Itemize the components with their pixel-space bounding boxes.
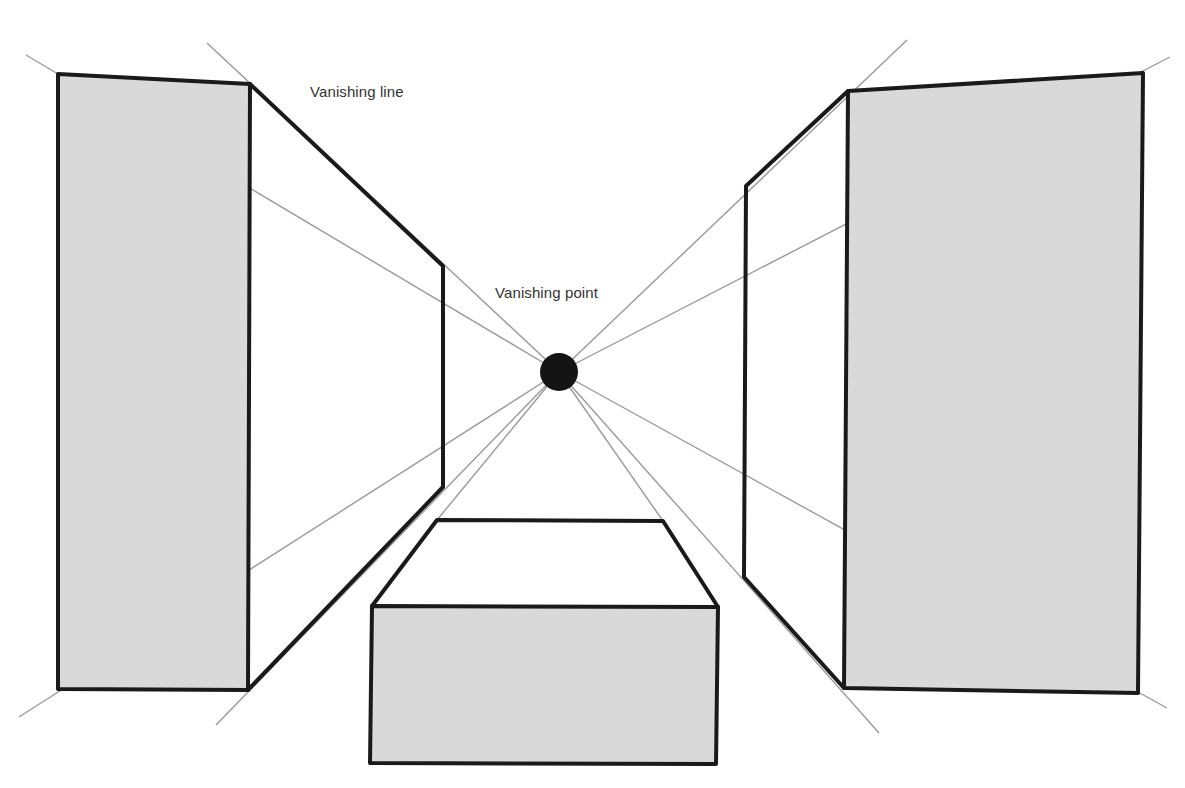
perspective-diagram xyxy=(0,0,1185,788)
vanishing-line-label: Vanishing line xyxy=(310,83,404,100)
vanishing-line xyxy=(437,372,559,520)
left-block xyxy=(58,74,443,690)
center-box-front-face xyxy=(370,606,718,764)
left-block-front-face xyxy=(58,74,250,690)
vanishing-point-dot xyxy=(540,353,578,391)
center-box-top-face xyxy=(372,520,718,607)
right-block-front-face xyxy=(844,73,1143,693)
center-box xyxy=(370,520,718,764)
vanishing-point-label: Vanishing point xyxy=(495,284,598,301)
left-block-side-face xyxy=(248,84,443,690)
right-block xyxy=(744,73,1143,693)
vanishing-line xyxy=(559,372,663,521)
